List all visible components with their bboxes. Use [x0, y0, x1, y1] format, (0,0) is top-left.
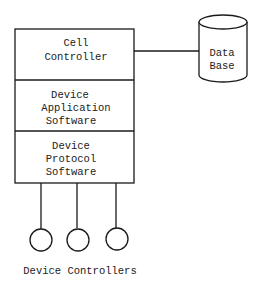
layer-label: Software [46, 115, 96, 127]
database-label: Base [209, 60, 234, 72]
device-controller-node [67, 229, 89, 251]
layer-device-application-software: Device Application Software [41, 89, 110, 127]
layer-label: Software [46, 166, 96, 178]
architecture-diagram: Cell Controller Device Application Softw… [0, 0, 258, 283]
layer-label: Device [51, 89, 89, 101]
database-label: Data [209, 47, 234, 59]
device-controller-node [30, 229, 52, 251]
device-controller-node [106, 228, 128, 250]
device-connectors [41, 183, 116, 229]
cylinder-top [199, 15, 247, 29]
layer-label: Device [52, 140, 90, 152]
layer-label: Application [41, 102, 110, 114]
layer-label: Cell [63, 37, 88, 49]
device-controllers-label: Device Controllers [23, 265, 136, 277]
layer-label: Protocol [46, 153, 96, 165]
device-controllers [30, 228, 128, 251]
layer-device-protocol-software: Device Protocol Software [46, 140, 96, 178]
layer-label: Controller [44, 51, 107, 63]
layer-cell-controller: Cell Controller [44, 37, 107, 63]
